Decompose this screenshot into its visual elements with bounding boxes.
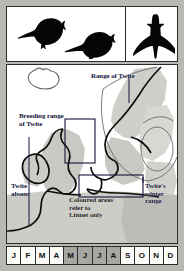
month-cell[interactable]: D xyxy=(164,247,177,264)
distribution-map: Range of Twite Breeding range of Twite T… xyxy=(6,64,178,244)
month-cell[interactable]: J xyxy=(93,247,107,264)
map-label-range-of-twite: Range of Twite xyxy=(91,73,134,81)
map-label-coloured-areas-note: Coloured areas refer to Linnet only xyxy=(69,197,141,220)
month-cell[interactable]: S xyxy=(121,247,135,264)
month-cell[interactable]: F xyxy=(21,247,35,264)
bird-flying-silhouette-icon xyxy=(133,13,175,59)
bird-distribution-plate: Range of Twite Breeding range of Twite T… xyxy=(0,0,184,271)
iceland-outline xyxy=(28,68,59,89)
month-strip: JFMAMJJASOND xyxy=(6,246,178,265)
month-cell[interactable]: J xyxy=(7,247,21,264)
panel-divider xyxy=(125,7,126,61)
month-cell[interactable]: M xyxy=(36,247,50,264)
month-cell[interactable]: M xyxy=(64,247,78,264)
month-cell[interactable]: J xyxy=(78,247,92,264)
month-cell[interactable]: A xyxy=(50,247,64,264)
month-cell[interactable]: A xyxy=(107,247,121,264)
bird-perched-silhouette-icon xyxy=(62,29,120,59)
month-cell[interactable]: N xyxy=(150,247,164,264)
map-label-twite-winter-range: Twite's winter range xyxy=(145,183,178,206)
silhouette-panel xyxy=(6,6,178,62)
map-label-twite-absent: Twite absent xyxy=(11,183,30,198)
month-cell[interactable]: O xyxy=(135,247,149,264)
map-label-breeding-range-of-twite: Breeding range of Twite xyxy=(19,113,89,128)
